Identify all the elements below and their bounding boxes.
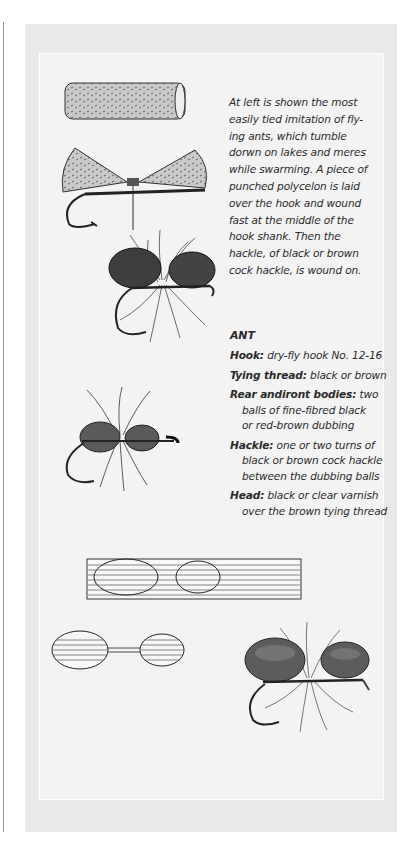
hackle-label: Hackle:: [230, 439, 273, 451]
recipe-thread: Tying thread: black or brown: [230, 368, 402, 384]
cut-oval-bodies-illustration: [50, 628, 190, 673]
intro-line: easily tied imitation of fly-: [229, 111, 399, 128]
polycelon-wound-illustration: [55, 138, 215, 230]
intro-line: dorwn on lakes and meres: [229, 144, 399, 161]
foam-sheet-illustration: [86, 555, 308, 605]
hook-value: dry-fly hook No. 12-16: [267, 349, 382, 361]
recipe-hook: Hook: dry-fly hook No. 12-16: [230, 348, 402, 364]
finished-polycelon-ant-illustration: [100, 230, 230, 345]
intro-line: over the hook and wound: [229, 195, 399, 212]
recipe-block: ANT Hook: dry-fly hook No. 12-16 Tying t…: [230, 328, 402, 523]
bodies-value: two: [359, 388, 378, 400]
margin-rule: [3, 22, 4, 832]
finished-foam-ant-illustration: [235, 620, 375, 735]
hook-label: Hook:: [230, 349, 264, 361]
recipe-head: Head: black or clear varnish over the br…: [230, 488, 402, 519]
bodies-value: or red-brown dubbing: [230, 418, 402, 434]
hackle-value: between the dubbing balls: [230, 469, 402, 485]
bodies-value: balls of fine-fibred black: [230, 403, 402, 419]
intro-line: punched polycelon is laid: [229, 178, 399, 195]
intro-line: At left is shown the most: [229, 94, 399, 111]
recipe-title: ANT: [230, 328, 402, 344]
intro-line: ing ants, which tumble: [229, 128, 399, 145]
intro-line: hackle, of black or brown: [229, 245, 399, 262]
hackle-value: black or brown cock hackle: [230, 453, 402, 469]
bodies-label: Rear andiront bodies:: [230, 388, 356, 400]
head-value: over the brown tying thread: [230, 504, 402, 520]
thread-label: Tying thread:: [230, 369, 307, 381]
dubbed-ant-illustration: [62, 385, 192, 495]
intro-line: while swarming. A piece of: [229, 161, 399, 178]
recipe-bodies: Rear andiront bodies: two balls of fine-…: [230, 387, 402, 434]
recipe-hackle: Hackle: one or two turns of black or bro…: [230, 438, 402, 485]
hackle-value: one or two turns of: [277, 439, 375, 451]
head-label: Head:: [230, 489, 264, 501]
intro-line: fast at the middle of the: [229, 212, 399, 229]
head-value: black or clear varnish: [268, 489, 379, 501]
intro-line: cock hackle, is wound on.: [229, 262, 399, 279]
polycelon-cylinder-illustration: [62, 80, 192, 124]
intro-paragraph: At left is shown the most easily tied im…: [229, 94, 399, 279]
thread-value: black or brown: [310, 369, 387, 381]
intro-line: hook shank. Then the: [229, 228, 399, 245]
